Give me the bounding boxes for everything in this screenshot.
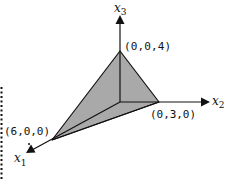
x2-arrow-icon <box>201 98 210 107</box>
vertex-label-030: (0,3,0) <box>150 108 196 121</box>
x1-axis-label: x1 <box>14 151 27 168</box>
shaded-triangle-region <box>52 51 159 140</box>
x3-axis-label: x3 <box>114 1 127 17</box>
3d-triangle-diagram: x3 x2 x1 (0,0,4) (0,3,0) (6,0,0) <box>0 0 227 179</box>
x2-axis-label: x2 <box>212 94 225 110</box>
vertex-label-004: (0,0,4) <box>124 40 171 53</box>
marker-dot <box>28 143 30 145</box>
vertex-label-600: (6,0,0) <box>4 125 50 138</box>
